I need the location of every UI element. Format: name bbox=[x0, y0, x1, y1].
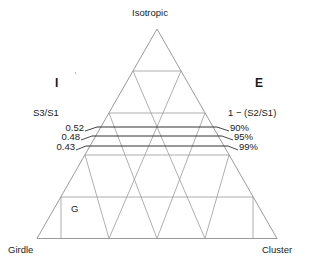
image-speck bbox=[75, 72, 76, 74]
vertex-label-isotropic: Isotropic bbox=[132, 8, 168, 18]
leader-left-99 bbox=[76, 146, 86, 150]
grid-lines bbox=[61, 71, 253, 239]
field-label-e: E bbox=[255, 77, 263, 89]
ternary-diagram-figure: Isotropic Girdle Cluster I E G S3/S1 1 −… bbox=[0, 0, 314, 271]
vertex-label-cluster: Cluster bbox=[262, 245, 292, 255]
leader-right-99 bbox=[228, 146, 238, 150]
contour-tick-right-2: 99% bbox=[239, 142, 258, 152]
leader-right-90 bbox=[217, 127, 229, 131]
contour-tick-left-2: 0.43 bbox=[41, 142, 75, 152]
field-label-i: I bbox=[55, 77, 58, 89]
field-label-g: G bbox=[71, 204, 78, 214]
axis-label-1-minus-s2-s1: 1 − (S2/S1) bbox=[228, 108, 276, 118]
triangle-right-edge bbox=[157, 29, 277, 239]
gridline-right-parallel-2 bbox=[109, 113, 157, 239]
contour-lines bbox=[86, 127, 228, 146]
gridline-left-parallel-2 bbox=[157, 113, 205, 239]
leader-left-95 bbox=[81, 136, 92, 140]
vertex-label-girdle: Girdle bbox=[8, 245, 33, 255]
contour-leader-lines bbox=[76, 127, 238, 150]
axis-label-s3-s1: S3/S1 bbox=[33, 108, 59, 118]
leader-left-90 bbox=[85, 127, 97, 131]
leader-right-95 bbox=[222, 136, 233, 140]
